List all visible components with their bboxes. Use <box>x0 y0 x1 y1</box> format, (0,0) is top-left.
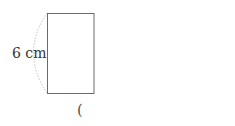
rectangle-diagram <box>0 0 235 126</box>
side-length-label: 6 cm <box>12 46 46 60</box>
rectangle <box>48 14 95 94</box>
answer-paren: ( <box>77 103 83 118</box>
